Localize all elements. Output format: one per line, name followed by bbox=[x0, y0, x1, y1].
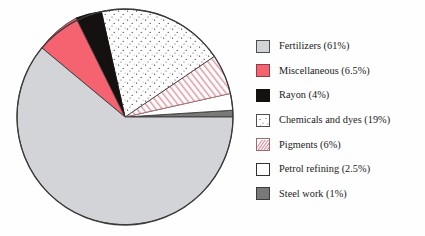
miscellaneous-swatch-icon bbox=[256, 64, 270, 77]
legend-item-fertilizers[interactable]: Fertilizers (61%) bbox=[256, 34, 424, 59]
fertilizers-swatch-icon bbox=[256, 40, 270, 53]
legend-item-pigments[interactable]: Pigments (6%) bbox=[256, 132, 424, 157]
diagonal-hatch-pattern-icon bbox=[257, 140, 270, 151]
pie-chart-svg bbox=[0, 0, 240, 236]
legend-label-rayon: Rayon (4%) bbox=[279, 90, 329, 100]
legend-item-petrol-refining[interactable]: Petrol refining (2.5%) bbox=[256, 157, 424, 182]
pie-chart-figure: Fertilizers (61%) Miscellaneous (6.5%) R… bbox=[0, 0, 425, 236]
rayon-swatch-icon bbox=[256, 89, 270, 102]
pigments-swatch-icon bbox=[256, 138, 270, 151]
legend-item-miscellaneous[interactable]: Miscellaneous (6.5%) bbox=[256, 59, 424, 84]
legend-item-steel-work[interactable]: Steel work (1%) bbox=[256, 182, 424, 207]
chemicals-and-dyes-swatch-icon bbox=[256, 114, 270, 127]
legend-label-pigments: Pigments (6%) bbox=[279, 140, 341, 150]
legend-label-steel-work: Steel work (1%) bbox=[279, 189, 347, 199]
chart-legend: Fertilizers (61%) Miscellaneous (6.5%) R… bbox=[256, 34, 424, 206]
petrol-refining-swatch-icon bbox=[256, 163, 270, 176]
dotted-pattern-icon bbox=[257, 116, 270, 127]
legend-label-miscellaneous: Miscellaneous (6.5%) bbox=[279, 66, 370, 76]
legend-item-chemicals-and-dyes[interactable]: Chemicals and dyes (19%) bbox=[256, 108, 424, 133]
legend-item-rayon[interactable]: Rayon (4%) bbox=[256, 83, 424, 108]
steel-work-swatch-icon bbox=[256, 187, 270, 200]
legend-label-petrol-refining: Petrol refining (2.5%) bbox=[279, 164, 370, 174]
pie-chart-plot-area bbox=[0, 0, 240, 236]
legend-label-chemicals-and-dyes: Chemicals and dyes (19%) bbox=[279, 115, 390, 125]
legend-label-fertilizers: Fertilizers (61%) bbox=[279, 41, 349, 51]
pie-slices bbox=[17, 9, 233, 225]
